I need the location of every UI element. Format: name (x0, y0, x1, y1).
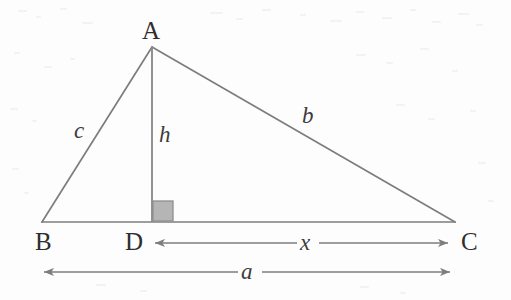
side-label-h: h (159, 123, 171, 146)
segment-c-side (42, 47, 152, 222)
segment-b-side (152, 47, 455, 222)
vertex-label-c: C (461, 229, 478, 254)
vertex-label-b: B (35, 229, 52, 254)
vertex-label-d: D (125, 229, 143, 254)
right-angle-icon (153, 201, 173, 221)
side-label-b: b (302, 104, 314, 127)
measure-label-a: a (241, 260, 253, 283)
vertex-label-a: A (142, 18, 160, 43)
figure-canvas: A B D C c h b x a (0, 0, 511, 300)
measure-label-x: x (300, 231, 310, 254)
side-label-c: c (74, 119, 84, 142)
